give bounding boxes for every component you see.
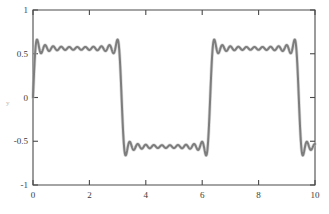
- y-tick-label: 0: [24, 93, 29, 103]
- plot-frame: [33, 10, 315, 185]
- x-axis-ticks: [33, 10, 315, 185]
- x-tick-label: 0: [31, 190, 36, 200]
- x-tick-label: 6: [200, 190, 205, 200]
- chart-figure: 0246810 -1-0.500.51 y: [0, 0, 329, 214]
- x-tick-label: 2: [87, 190, 92, 200]
- x-tick-label: 4: [144, 190, 149, 200]
- x-tick-label: 10: [311, 190, 321, 200]
- y-axis-label: y: [6, 99, 10, 107]
- y-axis-tick-labels: -1-0.500.51: [14, 5, 29, 190]
- y-tick-label: -1: [21, 180, 29, 190]
- y-axis-ticks: [33, 10, 315, 185]
- y-tick-label: 0.5: [17, 49, 29, 59]
- data-series-square-wave: [33, 40, 315, 156]
- x-tick-label: 8: [256, 190, 261, 200]
- y-tick-label: -0.5: [14, 136, 29, 146]
- y-tick-label: 1: [24, 5, 29, 15]
- chart-svg: 0246810 -1-0.500.51 y: [0, 0, 329, 214]
- x-axis-tick-labels: 0246810: [31, 190, 320, 200]
